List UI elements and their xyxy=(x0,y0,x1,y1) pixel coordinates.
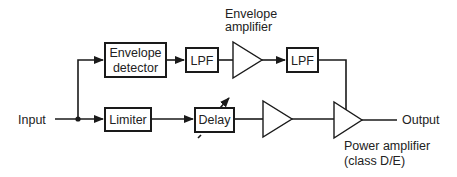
envelope-amplifier-label-2: amplifier xyxy=(225,20,272,34)
delay-label: Delay xyxy=(199,113,232,127)
limiter-label: Limiter xyxy=(109,113,147,127)
lpf1-label: LPF xyxy=(191,54,214,68)
lpf2-label: LPF xyxy=(291,54,314,68)
delay-block: Delay xyxy=(195,98,234,138)
limiter-block: Limiter xyxy=(105,108,151,131)
driver-amplifier-triangle xyxy=(263,101,292,137)
envelope-amplifier-triangle xyxy=(233,42,262,78)
envelope-detector-label-1: Envelope xyxy=(109,46,161,60)
wire-lpf2-pa xyxy=(318,60,346,110)
envelope-detector-block: Envelope detector xyxy=(105,43,166,77)
power-amplifier-triangle xyxy=(334,102,362,138)
envelope-amplifier-label-1: Envelope xyxy=(225,7,277,21)
lpf1-block: LPF xyxy=(186,48,218,72)
lpf2-block: LPF xyxy=(287,48,318,72)
variable-arrow-icon xyxy=(220,98,229,108)
envelope-detector-label-2: detector xyxy=(113,61,158,75)
power-amplifier-label-2: (class D/E) xyxy=(344,154,405,168)
input-label: Input xyxy=(18,113,46,127)
power-amplifier-label-1: Power amplifier xyxy=(344,139,430,153)
variable-arrow-tail xyxy=(198,135,201,138)
output-label: Output xyxy=(402,113,440,127)
wire-input-detector xyxy=(78,60,103,119)
block-diagram: Input Envelope detector LPF Envelope amp… xyxy=(0,0,457,177)
